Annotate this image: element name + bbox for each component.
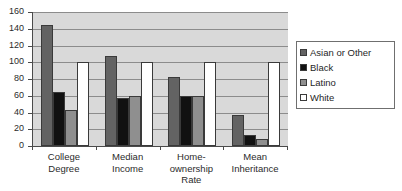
y-axis-tick-mark [28,129,32,130]
legend-swatch-icon [300,94,307,101]
y-axis-tick-label: 20 [14,124,24,133]
legend-item-label: Asian or Other [310,48,371,58]
y-axis-tick-label: 140 [9,24,24,33]
legend-item: Asian or Other [300,45,392,60]
y-axis-tick-mark [28,29,32,30]
y-axis-tick-label: 0 [19,141,24,150]
y-axis-tick-mark [28,46,32,47]
bar-chart: 020406080100120140160 College DegreeMedi… [0,0,402,191]
y-axis-tick-label: 40 [14,108,24,117]
y-axis-tick-mark [28,79,32,80]
bar [65,110,77,146]
bar-group [41,12,89,146]
plot-area [32,12,288,147]
legend-swatch-icon [300,49,307,56]
bar [192,96,204,146]
legend-item: White [300,90,392,105]
y-axis-tick-label: 80 [14,74,24,83]
legend-swatch-icon [300,64,307,71]
bar [41,25,53,146]
y-axis-tick-mark [28,96,32,97]
legend-item: Latino [300,75,392,90]
bar [141,62,153,146]
bar-group [105,12,153,146]
bar [232,115,244,146]
y-axis-tick-mark [28,62,32,63]
bar-group [168,12,216,146]
bar [105,56,117,146]
bar [53,92,65,146]
bar [268,62,280,146]
y-axis: 020406080100120140160 [0,0,30,191]
bar [244,135,256,146]
y-axis-tick-mark [28,12,32,13]
x-axis-category-label: Home- ownership Rate [160,151,224,186]
legend-item-label: Latino [310,78,336,88]
x-axis-tick-mark [32,146,33,150]
x-axis-category-label: College Degree [32,151,96,174]
y-axis-tick-label: 160 [9,7,24,16]
bar [256,139,268,146]
bar [129,96,141,146]
bar-group [232,12,280,146]
bar [168,77,180,146]
x-axis-category-label: Median Income [96,151,160,174]
y-axis-tick-label: 120 [9,41,24,50]
legend-swatch-icon [300,79,307,86]
bar [204,62,216,146]
y-axis-tick-mark [28,113,32,114]
legend-item-label: White [310,93,334,103]
bar [180,96,192,146]
bar [117,98,129,146]
x-axis-tick-mark [96,146,97,150]
x-axis-tick-mark [223,146,224,150]
legend-item: Black [300,60,392,75]
chart-legend: Asian or OtherBlackLatinoWhite [296,41,395,109]
bar [77,62,89,146]
x-axis-tick-mark [160,146,161,150]
y-axis-tick-label: 60 [14,91,24,100]
x-axis-tick-mark [287,146,288,150]
legend-item-label: Black [310,63,333,73]
x-axis-category-label: Mean Inheritance [223,151,287,174]
y-axis-tick-label: 100 [9,57,24,66]
